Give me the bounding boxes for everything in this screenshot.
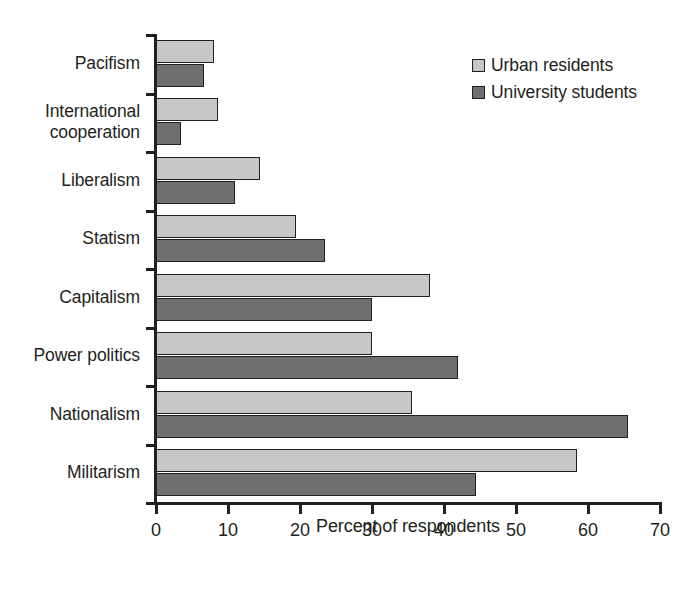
legend-label: University students (491, 82, 637, 103)
legend-item-urban-residents[interactable]: Urban residents (472, 53, 637, 77)
x-axis-tick (659, 505, 662, 514)
bar-militarism-urban-residents (156, 449, 577, 472)
category-axis-labels: PacifismInternational cooperationLiberal… (0, 34, 148, 502)
category-label-international-cooperation: International cooperation (0, 101, 140, 143)
category-label-militarism: Militarism (0, 462, 140, 483)
x-axis-tick (155, 505, 158, 514)
y-axis-tick (146, 268, 155, 271)
bar-liberalism-urban-residents (156, 157, 260, 180)
bar-nationalism-university-students (156, 415, 628, 438)
y-axis-tick (146, 444, 155, 447)
category-label-statism: Statism (0, 228, 140, 249)
x-axis-tick (371, 505, 374, 514)
bar-power-politics-university-students (156, 356, 458, 379)
bar-statism-urban-residents (156, 215, 296, 238)
bar-statism-university-students (156, 239, 325, 262)
bar-capitalism-urban-residents (156, 274, 430, 297)
legend-swatch-icon (472, 86, 485, 99)
bar-nationalism-urban-residents (156, 391, 412, 414)
bar-international-cooperation-university-students (156, 122, 181, 145)
x-axis-title: Percent of respondents (156, 516, 660, 537)
bar-chart: PacifismInternational cooperationLiberal… (0, 0, 689, 611)
category-label-pacifism: Pacifism (0, 53, 140, 74)
category-label-power-politics: Power politics (0, 345, 140, 366)
category-label-capitalism: Capitalism (0, 287, 140, 308)
y-axis-tick (146, 151, 155, 154)
x-axis-tick (299, 505, 302, 514)
bar-power-politics-urban-residents (156, 332, 372, 355)
bar-militarism-university-students (156, 473, 476, 496)
x-axis-tick (227, 505, 230, 514)
bar-pacifism-university-students (156, 64, 204, 87)
y-axis-tick (146, 385, 155, 388)
chart-legend: Urban residentsUniversity students (472, 53, 637, 107)
bar-international-cooperation-urban-residents (156, 98, 218, 121)
legend-swatch-icon (472, 59, 485, 72)
x-axis-tick (587, 505, 590, 514)
y-axis-tick (146, 327, 155, 330)
bar-liberalism-university-students (156, 181, 235, 204)
y-axis-tick (146, 34, 155, 37)
bar-pacifism-urban-residents (156, 40, 214, 63)
y-axis-tick (146, 93, 155, 96)
legend-label: Urban residents (491, 55, 613, 76)
category-label-nationalism: Nationalism (0, 404, 140, 425)
bar-capitalism-university-students (156, 298, 372, 321)
x-axis-tick (515, 505, 518, 514)
category-label-liberalism: Liberalism (0, 170, 140, 191)
legend-item-university-students[interactable]: University students (472, 80, 637, 104)
x-axis-tick (443, 505, 446, 514)
y-axis-tick (146, 210, 155, 213)
